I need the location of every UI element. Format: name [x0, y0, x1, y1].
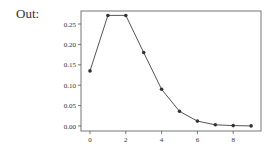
y-tick-label: 0.25	[64, 21, 77, 29]
x-tick-label: 8	[231, 136, 235, 144]
plot-frame	[81, 11, 261, 131]
y-tick-label: 0.05	[64, 102, 77, 110]
y-tick-label: 0.00	[64, 123, 77, 131]
data-point	[160, 87, 164, 91]
data-point	[88, 69, 92, 73]
x-tick-label: 6	[196, 136, 200, 144]
data-point	[249, 124, 253, 128]
y-tick-label: 0.20	[64, 41, 77, 49]
data-point	[214, 123, 218, 127]
data-point	[178, 110, 182, 114]
data-point	[142, 51, 146, 55]
y-tick-label: 0.15	[64, 61, 77, 69]
line-chart: 0.000.050.100.150.200.2502468	[0, 0, 272, 155]
data-point	[124, 14, 128, 18]
y-tick-label: 0.10	[64, 82, 77, 90]
x-tick-label: 4	[160, 136, 164, 144]
x-tick-label: 2	[124, 136, 128, 144]
data-point	[196, 119, 200, 123]
data-point	[106, 14, 110, 18]
x-tick-label: 0	[88, 136, 92, 144]
data-line	[90, 15, 251, 126]
data-point	[231, 124, 235, 128]
